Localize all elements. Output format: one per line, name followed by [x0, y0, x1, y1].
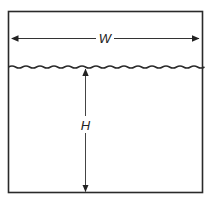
liquid-surface-wave: [9, 66, 205, 68]
height-label: H: [81, 118, 91, 133]
width-label: W: [99, 31, 113, 46]
tank-diagram: W H: [0, 0, 210, 200]
